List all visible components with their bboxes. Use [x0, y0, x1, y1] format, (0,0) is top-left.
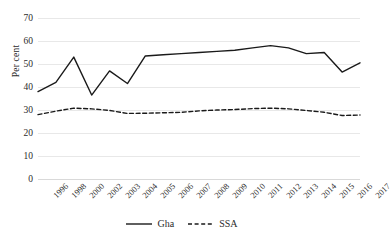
- x-tick-2009: 2009: [230, 181, 249, 200]
- y-tick-30: 30: [24, 105, 34, 115]
- x-tick-2006: 2006: [176, 181, 195, 200]
- y-tick-10: 10: [24, 151, 34, 161]
- y-tick-60: 60: [24, 36, 34, 46]
- x-tick-2016: 2016: [355, 181, 374, 200]
- series-lines: [38, 18, 360, 179]
- x-tick-2003: 2003: [123, 181, 142, 200]
- legend-label-ssa: SSA: [219, 219, 237, 229]
- x-tick-2011: 2011: [266, 181, 285, 200]
- y-axis-tick-labels: 010203040506070: [0, 18, 38, 179]
- x-tick-2002: 2002: [105, 181, 124, 200]
- x-tick-2005: 2005: [158, 181, 177, 200]
- legend-item-ssa[interactable]: SSA: [188, 219, 237, 229]
- y-tick-40: 40: [24, 82, 34, 92]
- x-tick-2010: 2010: [248, 181, 267, 200]
- y-tick-70: 70: [24, 13, 34, 23]
- x-tick-2014: 2014: [319, 181, 338, 200]
- x-tick-1996: 1996: [51, 181, 70, 200]
- x-tick-2004: 2004: [140, 181, 159, 200]
- x-tick-2007: 2007: [194, 181, 213, 200]
- x-tick-2015: 2015: [337, 181, 356, 200]
- plot-area: [38, 18, 360, 179]
- x-tick-1998: 1998: [69, 181, 88, 200]
- chart-legend: GhaSSA: [0, 219, 364, 229]
- y-tick-0: 0: [28, 174, 33, 184]
- solid-line-swatch: [126, 220, 152, 228]
- x-tick-2012: 2012: [284, 181, 303, 200]
- dashed-line-swatch: [188, 220, 214, 228]
- series-line-ssa: [38, 108, 360, 115]
- x-tick-2017: 2017: [373, 181, 392, 200]
- y-tick-20: 20: [24, 128, 34, 138]
- x-tick-2008: 2008: [212, 181, 231, 200]
- series-line-gha: [38, 46, 360, 95]
- y-tick-50: 50: [24, 59, 34, 69]
- x-tick-2013: 2013: [301, 181, 320, 200]
- x-tick-2000: 2000: [87, 181, 106, 200]
- gridline-0: [38, 179, 360, 180]
- legend-item-gha[interactable]: Gha: [126, 219, 174, 229]
- legend-label-gha: Gha: [157, 219, 174, 229]
